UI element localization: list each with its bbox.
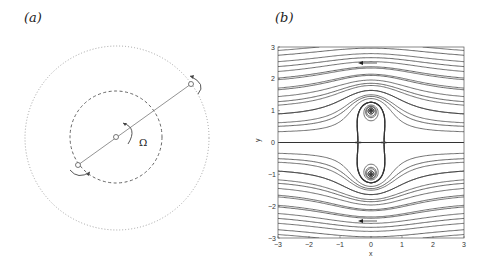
x-axis-label: x: [369, 250, 373, 257]
svg-text:1: 1: [400, 241, 404, 248]
svg-text:−3: −3: [274, 241, 282, 248]
svg-text:2: 2: [271, 75, 275, 82]
panel-b-streamline-plot: −3−2−10123−3−2−10123 x y: [0, 0, 484, 263]
svg-text:3: 3: [462, 241, 466, 248]
flow-arrow-bottom: [358, 219, 377, 223]
svg-text:2: 2: [431, 241, 435, 248]
svg-text:−1: −1: [336, 241, 344, 248]
svg-text:0: 0: [369, 241, 373, 248]
svg-text:−3: −3: [268, 235, 276, 242]
svg-text:1: 1: [271, 107, 275, 114]
svg-text:0: 0: [271, 139, 275, 146]
y-axis-label: y: [254, 138, 262, 142]
svg-text:−1: −1: [268, 171, 276, 178]
svg-text:−2: −2: [268, 203, 276, 210]
streamlines: [278, 47, 464, 238]
svg-text:−2: −2: [305, 241, 313, 248]
svg-text:3: 3: [271, 44, 275, 51]
